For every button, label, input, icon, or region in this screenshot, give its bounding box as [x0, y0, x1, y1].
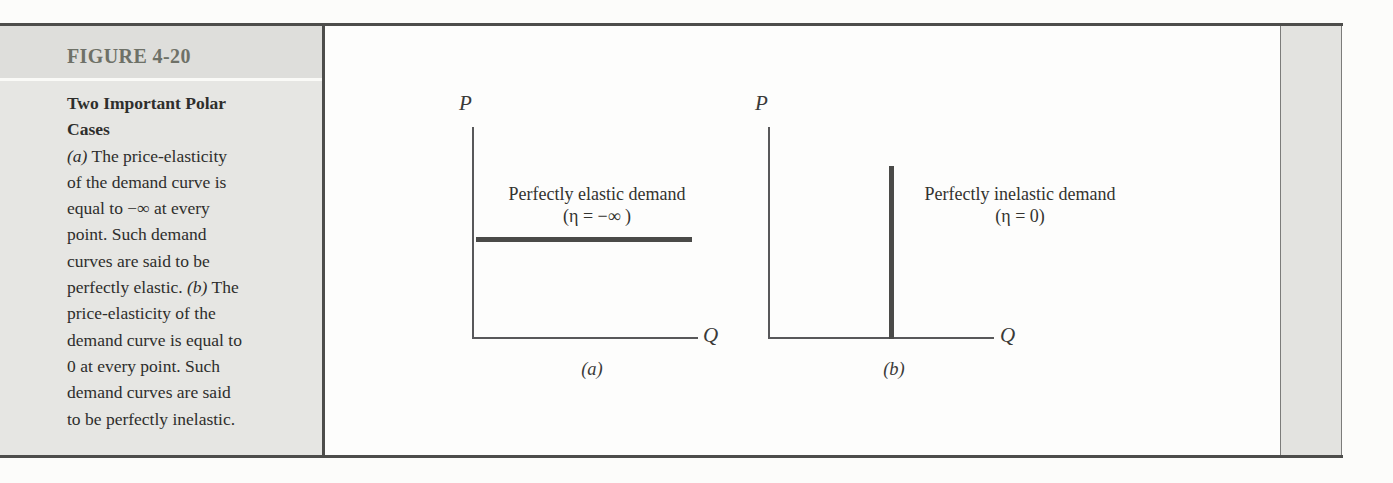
panel-b-x-axis: [768, 337, 994, 339]
panel-b-curve-label: Perfectly inelastic demand (η = 0): [897, 184, 1143, 227]
panel-a-y-axis: [472, 127, 474, 339]
panel-b-label: (b): [859, 359, 929, 380]
panel-b-marker: (b): [187, 277, 207, 297]
panel-a-marker: (a): [67, 146, 87, 166]
caption-line: curves are said to be: [67, 248, 319, 274]
figure-bottom-rule: [0, 455, 1343, 458]
perfectly-inelastic-demand-curve: [889, 166, 894, 339]
panel-a-curve-label: Perfectly elastic demand (η = −∞ ): [472, 184, 722, 227]
figure-caption-text: Two Important Polar Cases (a) The price-…: [67, 90, 319, 432]
caption-line: (a) The price-elasticity: [67, 143, 319, 169]
caption-line: perfectly elastic. (b) The: [67, 274, 319, 300]
caption-separator-line: [0, 78, 322, 81]
caption-title-line: Two Important Polar: [67, 90, 319, 116]
panel-a-label: (a): [557, 359, 627, 380]
caption-line: of the demand curve is: [67, 169, 319, 195]
caption-line: demand curve is equal to: [67, 327, 319, 353]
textbook-figure-page: FIGURE 4-20 Two Important Polar Cases (a…: [0, 0, 1393, 483]
panel-a-quantity-axis-label: Q: [703, 323, 718, 348]
caption-line: demand curves are said: [67, 379, 319, 405]
page-edge-strip: [1280, 26, 1342, 455]
figure-number-label: FIGURE 4-20: [67, 45, 191, 68]
caption-line: price-elasticity of the: [67, 300, 319, 326]
caption-title-line: Cases: [67, 116, 319, 142]
figure-caption-panel: FIGURE 4-20 Two Important Polar Cases (a…: [0, 26, 322, 455]
panel-b-quantity-axis-label: Q: [1000, 323, 1015, 348]
panel-a-x-axis: [472, 337, 698, 339]
caption-line: equal to −∞ at every: [67, 195, 319, 221]
panel-b-y-axis: [768, 127, 770, 339]
caption-line: point. Such demand: [67, 221, 319, 247]
caption-line: 0 at every point. Such: [67, 353, 319, 379]
panel-a-price-axis-label: P: [459, 91, 472, 116]
perfectly-elastic-demand-curve: [476, 237, 692, 242]
panel-b-price-axis-label: P: [755, 91, 768, 116]
caption-line: to be perfectly inelastic.: [67, 406, 319, 432]
